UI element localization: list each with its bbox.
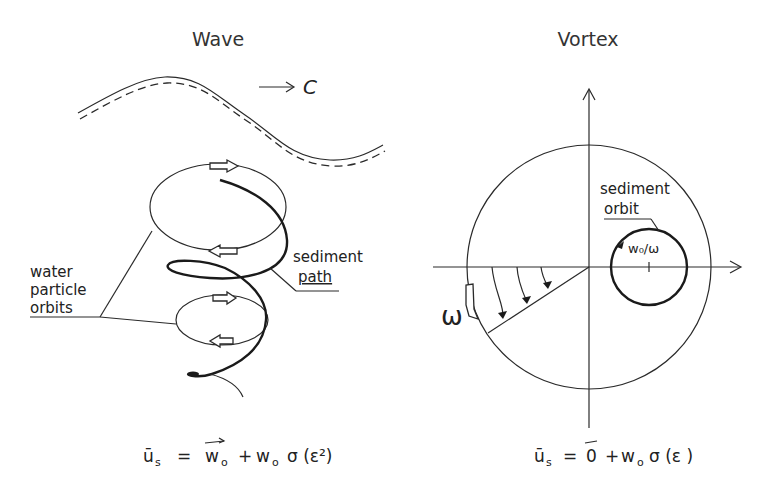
svg-text:sediment: sediment <box>600 180 670 198</box>
wave-panel: Wave C water <box>30 28 385 469</box>
sediment-orbit-label: sediment orbit <box>600 180 670 231</box>
svg-text:sediment: sediment <box>293 248 363 266</box>
celerity-label: C <box>303 75 317 99</box>
vertical-axis <box>583 89 595 428</box>
omega-label: ω <box>441 301 463 331</box>
orbit-arrow-upper-top <box>210 160 238 172</box>
rotated-radius <box>488 267 589 333</box>
svg-text:path: path <box>298 268 332 286</box>
svg-text:particle: particle <box>30 281 87 299</box>
svg-text:σ (ε ): σ (ε ) <box>649 446 693 466</box>
svg-text:+: + <box>238 446 252 466</box>
svg-text:w: w <box>205 446 219 466</box>
sediment-path-curve <box>168 180 287 376</box>
svg-text:=: = <box>563 446 577 466</box>
svg-text:o: o <box>272 456 279 469</box>
vortex-equation: ū s = 0 + w o σ (ε ) <box>534 441 693 469</box>
svg-text:w: w <box>256 446 270 466</box>
svg-text:s: s <box>155 456 161 469</box>
svg-text:w: w <box>621 446 635 466</box>
svg-text:o: o <box>637 456 644 469</box>
svg-text:+: + <box>605 446 619 466</box>
svg-text:orbits: orbits <box>30 299 73 317</box>
diagram-canvas: Wave C water <box>0 0 774 489</box>
svg-text:s: s <box>546 456 552 469</box>
water-orbits-label: water particle orbits <box>30 231 176 324</box>
omega-arrow <box>466 284 478 319</box>
orbit-arrow-upper-bottom <box>209 245 237 257</box>
wave-title: Wave <box>192 28 244 50</box>
upper-orbit-ellipse <box>150 164 286 250</box>
svg-text:=: = <box>177 446 191 466</box>
celerity-arrow <box>259 82 294 92</box>
svg-text:0: 0 <box>586 446 597 466</box>
wave-surface <box>78 77 383 160</box>
wave-equation: ū s = w o + w o σ (ε²) <box>143 438 332 469</box>
orbit-radius-label: w₀/ω <box>628 241 659 256</box>
svg-text:water: water <box>30 263 74 281</box>
sediment-path-tail <box>210 374 243 397</box>
svg-text:orbit: orbit <box>604 200 639 218</box>
wave-surface-dashed <box>80 83 385 166</box>
svg-text:ū: ū <box>534 446 545 466</box>
vortex-panel: Vortex w₀/ω sediment orbit <box>433 28 741 469</box>
svg-text:ū: ū <box>143 446 154 466</box>
sediment-path-end <box>187 371 199 376</box>
horizontal-axis <box>433 261 741 273</box>
orbit-arrow-lower-top <box>213 292 236 304</box>
svg-text:o: o <box>221 456 228 469</box>
vortex-title: Vortex <box>557 28 618 50</box>
svg-text:σ (ε²): σ (ε²) <box>287 446 332 466</box>
